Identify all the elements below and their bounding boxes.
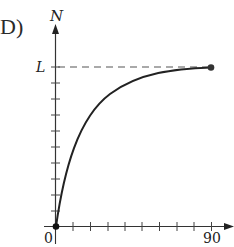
chart-svg: N L 0 90: [0, 0, 234, 247]
x-axis-arrow-icon: [224, 223, 234, 230]
x-end-label: 90: [203, 230, 221, 246]
origin-point: [53, 223, 60, 230]
end-point: [208, 64, 215, 71]
curve-line: [56, 68, 211, 227]
asymptote-label: L: [35, 59, 45, 75]
y-axis-label: N: [49, 7, 64, 25]
chart-panel-d: D): [0, 0, 234, 247]
y-axis-arrow-icon: [52, 24, 59, 34]
x-origin-label: 0: [44, 230, 53, 246]
